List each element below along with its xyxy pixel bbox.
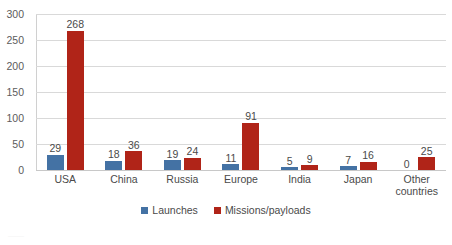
bar-launches: 18 bbox=[105, 161, 122, 170]
bar-value-label: 19 bbox=[167, 149, 179, 160]
category-group: 1924Russia bbox=[153, 14, 212, 170]
legend-swatch-launches-icon bbox=[141, 207, 148, 214]
category-group: 29268USA bbox=[36, 14, 95, 170]
scan-artifact: —— bbox=[8, 232, 24, 240]
chart-legend: Launches Missions/payloads bbox=[0, 205, 452, 216]
category-group: 1191Europe bbox=[212, 14, 271, 170]
category-group: 025Othercountries bbox=[387, 14, 446, 170]
bar-launches: 11 bbox=[222, 164, 239, 170]
x-axis-label: Russia bbox=[166, 174, 198, 186]
bar-launches: 5 bbox=[281, 167, 298, 170]
bars-row: 59 bbox=[270, 14, 329, 170]
bars-row: 1924 bbox=[153, 14, 212, 170]
bar-launches: 7 bbox=[340, 166, 357, 170]
bar-value-label: 0 bbox=[404, 159, 410, 170]
bar-missions: 25 bbox=[418, 157, 435, 170]
bar-value-label: 7 bbox=[345, 155, 351, 166]
bar-launches: 19 bbox=[164, 160, 181, 170]
x-axis-label: China bbox=[110, 174, 137, 186]
bar-missions: 91 bbox=[242, 123, 259, 170]
legend-item-missions: Missions/payloads bbox=[214, 205, 311, 216]
bars-row: 1191 bbox=[212, 14, 271, 170]
y-axis-label-50: 50 bbox=[0, 139, 24, 150]
bar-missions: 9 bbox=[301, 165, 318, 170]
category-group: 716Japan bbox=[329, 14, 388, 170]
plot-area: 05010015020025030029268USA1836China1924R… bbox=[36, 14, 446, 170]
bar-value-label: 268 bbox=[67, 19, 85, 30]
bar-value-label: 91 bbox=[245, 111, 257, 122]
bar-value-label: 16 bbox=[362, 150, 374, 161]
legend-label-launches: Launches bbox=[152, 205, 198, 216]
y-axis-label-100: 100 bbox=[0, 113, 24, 124]
gridline-0 bbox=[36, 170, 446, 171]
bar-value-label: 5 bbox=[287, 156, 293, 167]
bar-value-label: 25 bbox=[421, 146, 433, 157]
bar-value-label: 11 bbox=[226, 153, 237, 164]
x-axis-label: India bbox=[288, 174, 311, 186]
x-axis-label: Japan bbox=[344, 174, 373, 186]
y-axis-label-200: 200 bbox=[0, 61, 24, 72]
bar-value-label: 24 bbox=[187, 146, 199, 157]
x-axis-label: Othercountries bbox=[395, 174, 438, 197]
y-axis-label-150: 150 bbox=[0, 87, 24, 98]
bars-row: 1836 bbox=[95, 14, 154, 170]
bar-missions: 24 bbox=[184, 158, 201, 170]
bar-missions: 16 bbox=[360, 162, 377, 170]
bars-row: 29268 bbox=[36, 14, 95, 170]
bars-row: 716 bbox=[329, 14, 388, 170]
bar-missions: 268 bbox=[67, 31, 84, 170]
bar-value-label: 29 bbox=[49, 143, 61, 154]
legend-label-missions: Missions/payloads bbox=[225, 205, 311, 216]
category-group: 1836China bbox=[95, 14, 154, 170]
x-axis-label: Europe bbox=[224, 174, 258, 186]
bar-value-label: 18 bbox=[108, 149, 120, 160]
bar-launches: 29 bbox=[47, 155, 64, 170]
y-axis-label-0: 0 bbox=[0, 165, 24, 176]
bar-missions: 36 bbox=[125, 151, 142, 170]
y-axis-label-300: 300 bbox=[0, 9, 24, 20]
y-axis-label-250: 250 bbox=[0, 35, 24, 46]
bar-value-label: 9 bbox=[307, 154, 313, 165]
bar-chart: 05010015020025030029268USA1836China1924R… bbox=[0, 0, 452, 245]
bars-row: 025 bbox=[387, 14, 446, 170]
legend-swatch-missions-icon bbox=[214, 207, 221, 214]
x-axis-label: USA bbox=[54, 174, 76, 186]
category-group: 59India bbox=[270, 14, 329, 170]
bar-value-label: 36 bbox=[128, 140, 140, 151]
legend-item-launches: Launches bbox=[141, 205, 198, 216]
